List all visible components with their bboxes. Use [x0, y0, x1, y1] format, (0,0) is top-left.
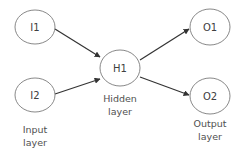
svg-text:Hidden: Hidden: [103, 93, 137, 104]
edge-h1-o1: [140, 29, 189, 60]
node-i2-label: I2: [30, 90, 39, 101]
node-h1-label: H1: [113, 63, 127, 74]
node-o2: O2: [190, 78, 230, 114]
hidden-layer-label: Hidden layer: [103, 93, 137, 117]
edge-h1-o2: [140, 77, 189, 95]
node-h1: H1: [100, 50, 140, 86]
edge-i2-h1: [55, 79, 100, 94]
node-i2: I2: [15, 78, 55, 112]
svg-text:layer: layer: [198, 131, 222, 142]
input-layer-label: Input layer: [23, 124, 48, 148]
neural-network-diagram: I1 I2 H1 O1 O2 Input layer Hidden layer …: [0, 0, 244, 153]
node-o1: O1: [190, 9, 230, 45]
node-i1: I1: [15, 10, 55, 44]
edge-i1-h1: [55, 29, 100, 57]
svg-text:layer: layer: [108, 106, 132, 117]
node-i1-label: I1: [30, 22, 39, 33]
output-layer-label: Output layer: [194, 118, 227, 142]
node-o2-label: O2: [203, 91, 217, 102]
svg-text:layer: layer: [23, 137, 47, 148]
svg-text:Output: Output: [194, 118, 227, 129]
svg-text:Input: Input: [23, 124, 48, 135]
node-o1-label: O1: [203, 22, 217, 33]
